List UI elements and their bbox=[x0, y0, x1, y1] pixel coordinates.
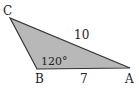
vertex-label-b: B bbox=[35, 72, 44, 86]
angle-label-b: 120° bbox=[41, 55, 68, 68]
side-label-ca: 10 bbox=[74, 28, 89, 42]
side-label-ba: 7 bbox=[80, 72, 88, 86]
vertex-label-c: C bbox=[3, 4, 12, 18]
triangle-abc bbox=[10, 18, 130, 69]
triangle-diagram: C B A 10 7 120° bbox=[0, 0, 139, 98]
vertex-label-a: A bbox=[124, 72, 134, 86]
